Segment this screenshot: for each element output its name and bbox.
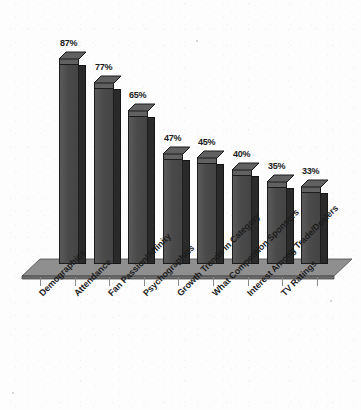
bar-value-label: 40%	[233, 149, 250, 159]
chart-container: 87%77%65%47%45%40%35%33% DemographicsAtt…	[0, 0, 361, 410]
axis-tick-7	[248, 277, 249, 286]
axis-tick-end	[317, 277, 318, 286]
bar-value-label: 35%	[268, 161, 285, 171]
bar-value-label: 45%	[198, 137, 215, 147]
bar-front-face	[59, 58, 79, 264]
axis-tick-6	[213, 277, 214, 286]
bar-1	[59, 58, 79, 264]
bar-value-label: 65%	[129, 90, 146, 100]
bar-top-bevel	[163, 146, 192, 155]
bar-3	[128, 110, 148, 264]
bar-front-face	[94, 82, 114, 264]
axis-tick-5	[178, 277, 179, 286]
bar-4	[163, 153, 183, 264]
bar-2	[94, 82, 114, 264]
axis-tick-2	[75, 277, 76, 286]
bar-top-bevel	[128, 103, 157, 112]
axis-tick-8	[282, 277, 283, 286]
bar-front-face	[197, 157, 217, 264]
bar-side-face	[321, 193, 328, 264]
bar-top-bevel	[301, 179, 330, 188]
bar-side-face	[79, 65, 86, 264]
axis-tick-3	[109, 277, 110, 286]
bar-value-label: 33%	[302, 166, 319, 176]
bar-top-bevel	[94, 75, 123, 84]
scan-speck	[12, 392, 14, 394]
scan-speck	[330, 300, 332, 302]
bar-5	[197, 157, 217, 264]
bar-top-bevel	[267, 174, 296, 183]
bar-value-label: 47%	[164, 133, 181, 143]
bar-front-face	[128, 110, 148, 264]
bar-top-bevel	[232, 162, 261, 171]
axis-tick-1	[40, 277, 41, 286]
bar-top-bevel	[59, 51, 88, 60]
bar-value-label: 77%	[95, 62, 112, 72]
bar-value-label: 87%	[60, 38, 77, 48]
bar-top-bevel	[197, 150, 226, 159]
bar-side-face	[114, 89, 121, 264]
bar-front-face	[163, 153, 183, 264]
axis-tick-4	[144, 277, 145, 286]
